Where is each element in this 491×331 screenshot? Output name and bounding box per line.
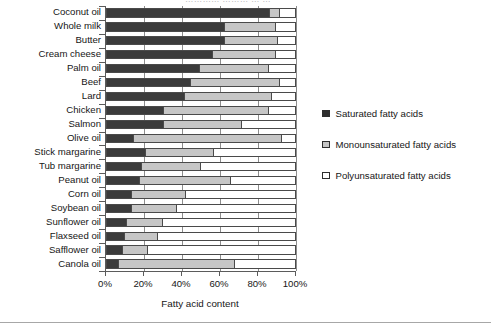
legend-item[interactable]: Monounsaturated fatty acids (322, 139, 490, 150)
bar-row[interactable] (106, 92, 296, 101)
legend-item[interactable]: Polyunsaturated fatty acids (322, 170, 490, 181)
bar-segment-monounsaturated (139, 177, 231, 184)
gridline-100 (296, 6, 297, 271)
legend-swatch-icon (322, 141, 330, 149)
bar-segment-saturated (107, 121, 163, 128)
category-label: Sunflower oil (0, 217, 101, 227)
bar-segment-saturated (107, 51, 212, 58)
category-label: Soybean oil (0, 203, 101, 213)
x-axis-tick-label: 40% (171, 278, 190, 289)
y-axis-tick (99, 201, 105, 202)
bar-row[interactable] (106, 22, 296, 31)
y-axis-tick (99, 145, 105, 146)
bar-segment-monounsaturated (131, 205, 176, 212)
bar-row[interactable] (106, 134, 296, 143)
bar-segment-saturated (107, 93, 184, 100)
bar-row[interactable] (106, 162, 296, 171)
bar-row[interactable] (106, 50, 296, 59)
bar-segment-polyunsaturated (163, 219, 295, 226)
bar-row[interactable] (106, 8, 296, 17)
x-axis-tick (295, 271, 296, 276)
bar-segment-saturated (107, 163, 141, 170)
bar-segment-saturated (107, 37, 224, 44)
category-label: Olive oil (0, 133, 101, 143)
bar-segment-polyunsaturated (201, 163, 295, 170)
footer-divider (0, 322, 491, 323)
bar-segment-polyunsaturated (282, 135, 295, 142)
bar-segment-saturated (107, 23, 224, 30)
category-label: Whole milk (0, 21, 101, 31)
legend-label: Polyunsaturated fatty acids (336, 170, 451, 181)
y-axis-tick (99, 173, 105, 174)
bar-segment-monounsaturated (184, 93, 272, 100)
bar-row[interactable] (106, 64, 296, 73)
bar-segment-monounsaturated (131, 191, 186, 198)
bar-segment-saturated (107, 260, 118, 267)
bar-segment-polyunsaturated (186, 191, 295, 198)
x-axis-tick-label: 0% (98, 278, 112, 289)
bar-segment-saturated (107, 191, 131, 198)
category-label: Coconut oil (0, 7, 101, 17)
bar-segment-monounsaturated (118, 260, 235, 267)
bar-row[interactable] (106, 176, 296, 185)
x-axis-tick-label: 20% (133, 278, 152, 289)
bar-segment-monounsaturated (163, 121, 242, 128)
bar-segment-monounsaturated (224, 37, 279, 44)
bar-row[interactable] (106, 120, 296, 129)
y-axis-tick (99, 90, 105, 91)
legend-swatch-icon (322, 172, 330, 180)
bar-row[interactable] (106, 218, 296, 227)
x-axis-line (105, 271, 295, 272)
cut-off-title: ………… ……… … … (185, 0, 485, 3)
bar-segment-polyunsaturated (276, 23, 295, 30)
category-label: Safflower oil (0, 245, 101, 255)
bar-segment-monounsaturated (126, 219, 164, 226)
bar-segment-polyunsaturated (242, 121, 295, 128)
y-axis-tick (99, 34, 105, 35)
bar-segment-saturated (107, 9, 269, 16)
legend-swatch-icon (322, 110, 330, 118)
y-axis-tick (99, 187, 105, 188)
bar-segment-polyunsaturated (276, 51, 295, 58)
bar-segment-saturated (107, 79, 190, 86)
legend-item[interactable]: Saturated fatty acids (322, 108, 490, 119)
bar-segment-monounsaturated (145, 149, 215, 156)
x-axis-tick-label: 80% (247, 278, 266, 289)
y-axis-tick (99, 118, 105, 119)
category-label: Cream cheese (0, 49, 101, 59)
bar-segment-saturated (107, 246, 122, 253)
category-label: Palm oil (0, 63, 101, 73)
category-label: Canola oil (0, 259, 101, 269)
bar-row[interactable] (106, 245, 296, 254)
category-label: Salmon (0, 119, 101, 129)
bar-row[interactable] (106, 190, 296, 199)
bar-row[interactable] (106, 36, 296, 45)
category-label: Peanut oil (0, 175, 101, 185)
legend-label: Saturated fatty acids (336, 108, 423, 119)
x-axis-tick-label: 100% (283, 278, 308, 289)
bar-segment-polyunsaturated (177, 205, 295, 212)
bar-segment-monounsaturated (190, 79, 280, 86)
bar-row[interactable] (106, 204, 296, 213)
legend-label: Monounsaturated fatty acids (336, 139, 457, 150)
x-axis-tick (143, 271, 144, 276)
bar-row[interactable] (106, 232, 296, 241)
bar-row[interactable] (106, 78, 296, 87)
x-axis-label: Fatty acid content (105, 298, 295, 309)
bar-segment-polyunsaturated (231, 177, 295, 184)
bar-segment-saturated (107, 205, 131, 212)
y-axis-tick (99, 159, 105, 160)
bar-row[interactable] (106, 106, 296, 115)
legend: Saturated fatty acidsMonounsaturated fat… (322, 108, 490, 201)
y-axis-tick (99, 6, 105, 7)
bar-row[interactable] (106, 259, 296, 268)
x-axis-tick (105, 271, 106, 276)
bar-segment-polyunsaturated (269, 65, 295, 72)
category-label: Lard (0, 91, 101, 101)
bar-segment-monounsaturated (224, 23, 277, 30)
bar-segment-polyunsaturated (235, 260, 295, 267)
bar-segment-polyunsaturated (214, 149, 295, 156)
bar-segment-monounsaturated (269, 9, 280, 16)
x-axis-tick-label: 60% (209, 278, 228, 289)
bar-row[interactable] (106, 148, 296, 157)
